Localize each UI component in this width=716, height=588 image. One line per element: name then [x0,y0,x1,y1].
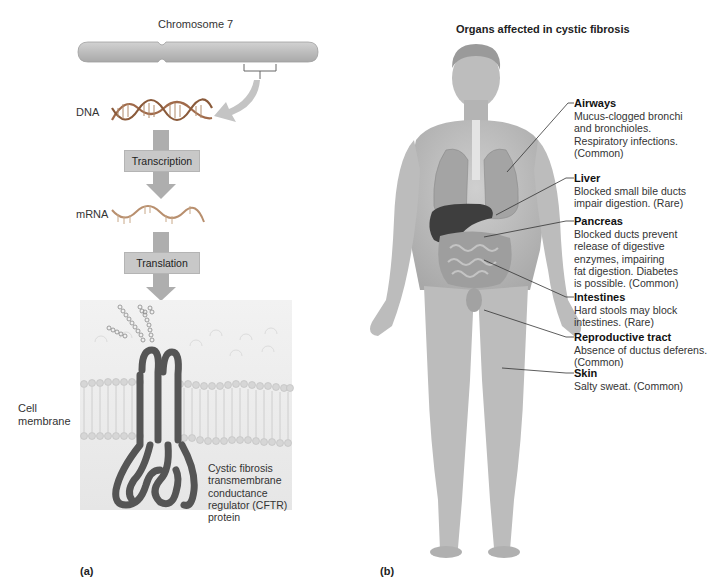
step-transcription: Transcription [124,150,200,172]
organ-desc-line: Blocked small bile ducts [574,185,716,197]
organ-desc-line: Hard stools may block [574,304,716,316]
organ-desc-line: intestines. (Rare) [574,316,716,328]
cftr-label-line: regulator (CFTR) [208,499,287,511]
organ-airways: Airways Mucus-clogged bronchi and bronch… [574,97,716,159]
mrna-strand-icon [112,205,204,224]
cftr-label-line: protein [208,511,287,523]
cell-membrane-label: Cell membrane [18,402,71,428]
cftr-label-line: conductance [208,487,287,499]
organ-name: Intestines [574,291,716,304]
organ-name: Reproductive tract [574,331,716,344]
organ-intestines: Intestines Hard stools may block intesti… [574,291,716,329]
organ-desc-line: Absence of ductus deferens. [574,344,716,356]
organ-skin: Skin Salty sweat. (Common) [574,367,716,392]
organ-desc-line: enzymes, impairing [574,253,716,265]
cftr-label-line: transmembrane [208,474,287,486]
organ-desc-line: impair digestion. (Rare) [574,197,716,209]
dna-label: DNA [76,106,99,119]
cftr-label-line: Cystic fibrosis [208,462,287,474]
step-translation: Translation [124,252,200,274]
organ-name: Liver [574,172,716,185]
organ-name: Pancreas [574,215,716,228]
curved-arrow [214,80,260,122]
organ-liver: Liver Blocked small bile ducts impair di… [574,172,716,210]
organ-desc-line: Salty sweat. (Common) [574,380,716,392]
organ-desc-line: (Common) [574,147,716,159]
organ-desc-line: and bronchioles. [574,122,716,134]
chromosome-7-shape [78,42,318,79]
organ-desc-line: fat digestion. Diabetes [574,265,716,277]
organ-reproductive-tract: Reproductive tract Absence of ductus def… [574,331,716,369]
human-body-illustration [370,44,581,558]
organ-desc-line: release of digestive [574,240,716,252]
organ-desc-line: Respiratory infections. [574,135,716,147]
cftr-protein-label: Cystic fibrosis transmembrane conductanc… [208,462,287,523]
chromosome-label: Chromosome 7 [158,18,233,31]
organ-name: Airways [574,97,716,110]
dna-helix-icon [112,99,212,120]
panel-b-label: (b) [380,565,394,577]
panel-a-label: (a) [80,565,93,577]
intestines-shape [438,231,511,288]
organ-desc-line: Mucus-clogged bronchi [574,110,716,122]
mrna-label: mRNA [76,208,108,221]
organ-desc-line: Blocked ducts prevent [574,228,716,240]
cell-membrane-label-line1: Cell [18,402,71,415]
panel-b-title: Organs affected in cystic fibrosis [456,23,630,35]
organ-name: Skin [574,367,716,380]
organ-desc-line: is possible. (Common) [574,277,716,289]
cell-membrane-label-line2: membrane [18,415,71,428]
organ-pancreas: Pancreas Blocked ducts prevent release o… [574,215,716,289]
